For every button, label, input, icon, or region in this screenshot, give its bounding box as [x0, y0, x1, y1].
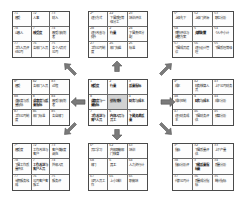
- grid-cell[interactable]: 5¹上级先下: [173, 12, 193, 27]
- grid-cell[interactable]: 72工作改进与客户: [32, 144, 51, 159]
- grid-cell[interactable]: 56运行设计管理: [193, 42, 213, 57]
- grid-cell[interactable]: 63培训: [128, 144, 147, 159]
- grid-cell[interactable]: 76各部门人员: [32, 42, 51, 57]
- grid-cell-center[interactable]: 5资源配置: [193, 27, 213, 42]
- grid-cell[interactable]: 47运行财务成本: [173, 110, 193, 125]
- grid-cell[interactable]: 88满意度与质量指标: [13, 95, 32, 110]
- grid-cell[interactable]: 73客户满意度调充: [50, 144, 69, 159]
- grid-cell[interactable]: 36质量成分指标: [193, 175, 213, 190]
- grid-cell[interactable]: 6内部人员与员工: [108, 110, 127, 125]
- grid-cell[interactable]: 72人事: [32, 12, 51, 27]
- grid-cell-center[interactable]: 6员工: [108, 159, 127, 174]
- cell-number: 24: [129, 27, 133, 31]
- grid-cell[interactable]: 27工作公司制度: [89, 42, 108, 57]
- grid-cell[interactable]: 35统计指标: [213, 175, 233, 190]
- cell-number: 78: [14, 159, 18, 163]
- grid-cell-center[interactable]: 2行量: [108, 27, 127, 42]
- grid-cell[interactable]: 68部门: [89, 159, 108, 174]
- grid-bottom-center[interactable]: 6¹员工学习 62内部职能部门核算 63培训 68部门 6员工 64人力资行计 …: [88, 143, 148, 191]
- grid-cell[interactable]: 76公司客户客服工: [32, 175, 51, 190]
- grid-cell[interactable]: 5下属资源质量: [128, 110, 147, 125]
- grid-cell[interactable]: 82各部门人员: [32, 80, 51, 95]
- grid-cell[interactable]: 65职能培: [128, 175, 147, 190]
- grid-cell[interactable]: 4¹成本: [173, 80, 193, 95]
- grid-cell[interactable]: 34质量分析: [213, 159, 233, 174]
- grid-top-right[interactable]: 5¹上级先下 52上级门资源 53职位分析 58情构评估与调整方案 5资源配置 …: [172, 11, 234, 58]
- grid-cell[interactable]: 45预算分析: [213, 110, 233, 125]
- grid-cell-center[interactable]: 4财务与成本: [193, 95, 213, 110]
- grid-cell[interactable]: 77工作人员评价公司: [13, 42, 32, 57]
- grid-cell[interactable]: 87工作公司制度: [13, 110, 32, 125]
- grid-cell[interactable]: 64人力资行计: [128, 159, 147, 174]
- grid-middle-left[interactable]: 8¹感受 82各部门人员 83过程 88满意度与质量指标 8满意度与质量指标 8…: [12, 79, 70, 126]
- grid-cell[interactable]: 57下属成员建议: [173, 42, 193, 57]
- grid-cell[interactable]: 78山感人: [13, 27, 32, 42]
- cell-text: 感受与规划者: [52, 99, 68, 107]
- grid-cell[interactable]: 37代表公司计: [173, 175, 193, 190]
- grid-cell[interactable]: 84感受与规划者: [50, 95, 69, 110]
- grid-cell[interactable]: 4财务与成本: [128, 95, 147, 110]
- grid-cell[interactable]: 73财入: [50, 12, 69, 27]
- grid-cell[interactable]: 28运行改善与提升: [89, 27, 108, 42]
- grid-cell[interactable]: 78下属工作质量评估: [13, 159, 32, 174]
- grid-cell[interactable]: 66上小培训: [108, 175, 127, 190]
- grid-cell[interactable]: 62内部职能部门核算: [108, 144, 127, 159]
- grid-bottom-right[interactable]: 3¹指标 32下属质量评估 33上下产量 38指标分析评 3下属质量指标量 34…: [172, 143, 234, 191]
- grid-cell[interactable]: 7¹感受度: [13, 144, 32, 159]
- cell-number: 86: [33, 110, 37, 114]
- grid-cell[interactable]: 55下属质理等级: [213, 42, 233, 57]
- grid-cell[interactable]: 75各个人员对公司: [50, 42, 69, 57]
- grid-cell[interactable]: 75服务评: [50, 175, 69, 190]
- grid-cell[interactable]: 8满意度与一量指标: [89, 95, 108, 110]
- grid-cell[interactable]: 25标准: [128, 42, 147, 57]
- grid-cell[interactable]: 52上级门资源: [193, 12, 213, 27]
- grid-cell[interactable]: 2¹运行方式: [89, 12, 108, 27]
- grid-cell[interactable]: 43上下公司财务: [213, 80, 233, 95]
- grid-middle-right[interactable]: 4¹成本 42财务核算人员 43上下公司财务 48成本控制 4财务与成本 44成…: [172, 79, 234, 126]
- grid-cell[interactable]: 58情构评估与调整方案: [173, 27, 193, 42]
- grid-cell-center[interactable]: 3下属质量指标量: [193, 159, 213, 174]
- grid-cell[interactable]: 48成本控制: [173, 95, 193, 110]
- grid-cell[interactable]: 42财务核算人员: [193, 80, 213, 95]
- grid-cell[interactable]: 32下属质量评估: [193, 144, 213, 159]
- grid-cell-center[interactable]: 8满意度与质量指标: [32, 95, 51, 110]
- grid-cell[interactable]: 26部门标准: [108, 42, 127, 57]
- grid-cell[interactable]: 2行量: [108, 80, 127, 95]
- grid-cell[interactable]: 22下属质理等级分工: [108, 12, 127, 27]
- cell-text: 山感人: [15, 31, 30, 35]
- grid-cell[interactable]: 38指标分析评: [173, 159, 193, 174]
- grid-cell-center[interactable]: 7工作改进与客户人员: [32, 159, 51, 174]
- grid-cell[interactable]: 7工作改进与客户人员: [89, 110, 108, 125]
- cell-text: 预算分析: [215, 114, 233, 118]
- grid-cell[interactable]: 74外部人员: [50, 159, 69, 174]
- grid-cell-center[interactable]: 7感受度: [32, 27, 51, 42]
- grid-cell[interactable]: 83过程: [50, 80, 69, 95]
- grid-cell[interactable]: 8¹感受: [13, 80, 32, 95]
- grid-cell[interactable]: 3质量指标: [128, 80, 147, 95]
- grid-cell[interactable]: 53职位分析: [213, 12, 233, 27]
- grid-cell[interactable]: 24下属责任分配: [128, 27, 147, 42]
- grid-cell[interactable]: 33上下产量: [213, 144, 233, 159]
- cell-text: 满意度与质量指标: [15, 99, 30, 107]
- grid-top-left[interactable]: 71感受 72人事 73财入 78山感人 7感受度 74感受与规划者 77工作人…: [12, 11, 70, 58]
- grid-cell-core[interactable]: 绩效考核: [108, 95, 127, 110]
- grid-cell[interactable]: 67公司人员工作: [89, 175, 108, 190]
- grid-cell[interactable]: 1感受度: [89, 80, 108, 95]
- grid-cell[interactable]: 46下属财务评估: [193, 110, 213, 125]
- cell-number: 75: [51, 42, 55, 46]
- grid-bottom-left[interactable]: 7¹感受度 72工作改进与客户 73客户满意度调充 78下属工作质量评估 7工作…: [12, 143, 70, 191]
- grid-cell[interactable]: 74感受与规划者: [50, 27, 69, 42]
- grid-center[interactable]: 1感受度 2行量 3质量指标 8满意度与一量指标 绩效考核 4财务与成本 7工作…: [88, 79, 148, 126]
- cell-text: 内部职能部门核算: [110, 148, 126, 156]
- grid-cell[interactable]: 86部门标准: [32, 110, 51, 125]
- grid-cell[interactable]: 44成本分析: [213, 95, 233, 110]
- grid-cell[interactable]: 54个人中小计: [213, 27, 233, 42]
- grid-cell[interactable]: 71感受: [13, 12, 32, 27]
- grid-cell[interactable]: 23培训评估: [128, 12, 147, 27]
- grid-cell[interactable]: 3¹指标: [173, 144, 193, 159]
- grid-cell[interactable]: 6¹员工学习: [89, 144, 108, 159]
- cell-text: 上下公司财务: [215, 84, 233, 88]
- grid-top-center[interactable]: 2¹运行方式 22下属质理等级分工 23培训评估 28运行改善与提升 2行量 2…: [88, 11, 148, 58]
- cell-text: 职位分析: [215, 16, 233, 20]
- grid-cell[interactable]: 77长期服务栈成: [13, 175, 32, 190]
